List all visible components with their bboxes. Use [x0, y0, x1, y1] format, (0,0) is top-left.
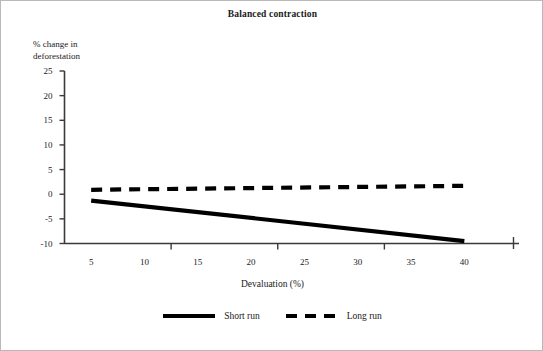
legend-item-short-run: Short run [163, 311, 260, 321]
x-axis-ticks [171, 244, 384, 250]
legend-swatch-dashed-icon [286, 314, 338, 318]
x-tick-label: 15 [183, 257, 213, 267]
y-tick-label: 10 [27, 140, 53, 150]
series-line-long-run [91, 186, 464, 190]
chart-legend: Short run Long run [1, 311, 543, 321]
x-tick-label: 35 [396, 257, 426, 267]
x-axis-label: Devaluation (%) [1, 279, 543, 289]
y-tick-label: 5 [27, 165, 53, 175]
x-tick-label: 25 [289, 257, 319, 267]
y-tick-label: 15 [27, 115, 53, 125]
legend-label-short-run: Short run [224, 311, 260, 321]
x-tick-label: 20 [236, 257, 266, 267]
series-line-short-run [91, 201, 464, 241]
y-tick-label: -10 [27, 239, 53, 249]
y-tick-label: -5 [27, 214, 53, 224]
x-tick-label: 40 [449, 257, 479, 267]
legend-label-long-run: Long run [347, 311, 382, 321]
x-tick-label: 30 [343, 257, 373, 267]
y-tick-label: 0 [27, 189, 53, 199]
chart-figure: Balanced contraction % change in defores… [0, 0, 543, 351]
plot-area [1, 1, 543, 351]
y-tick-label: 20 [27, 91, 53, 101]
x-tick-label: 10 [129, 257, 159, 267]
legend-item-long-run: Long run [286, 311, 382, 321]
y-tick-label: 25 [27, 66, 53, 76]
legend-swatch-solid-icon [163, 314, 215, 318]
x-tick-label: 5 [76, 257, 106, 267]
